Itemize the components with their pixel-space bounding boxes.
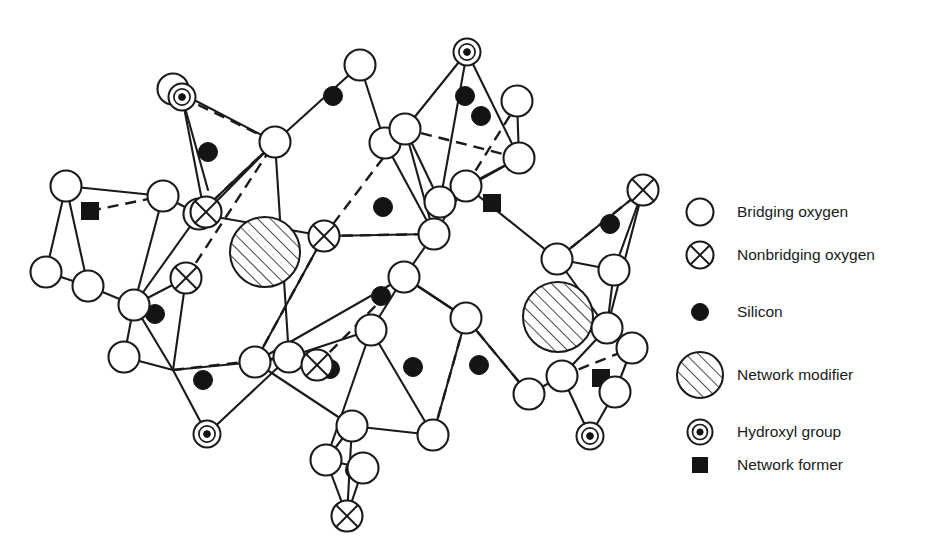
filled-square-icon (82, 203, 99, 220)
bridging-oxygen-node (514, 379, 545, 410)
open-circle-icon (514, 379, 545, 410)
nonbridging-oxygen-node (191, 197, 222, 228)
bridging-oxygen-node (337, 411, 368, 442)
bridging-oxygen-node (311, 445, 342, 476)
bridging-oxygen-node (348, 453, 379, 484)
filled-circle-icon (470, 356, 489, 375)
nonbridging-oxygen-node (171, 263, 202, 294)
network-modifier-node (523, 282, 593, 352)
filled-circle-icon (472, 107, 491, 126)
filled-circle-icon (601, 215, 620, 234)
silicon-node (194, 371, 213, 390)
nonbridging-oxygen-node (628, 175, 659, 206)
filled-circle-icon (324, 87, 343, 106)
center-dot (204, 431, 211, 438)
open-circle-icon (348, 453, 379, 484)
open-circle-icon (600, 377, 631, 408)
open-circle-icon (504, 143, 535, 174)
open-circle-icon (337, 411, 368, 442)
network-former-node (82, 203, 99, 220)
bridging-oxygen-node (600, 377, 631, 408)
center-dot (697, 429, 703, 435)
silicon-node (601, 215, 620, 234)
open-circle-icon (389, 262, 420, 293)
filled-square-icon (693, 458, 708, 473)
open-circle-icon (240, 347, 271, 378)
legend-icon-bridging-oxygen (687, 199, 714, 226)
silicon-node (472, 107, 491, 126)
bridging-oxygen-node (592, 313, 623, 344)
open-circle-icon (425, 187, 456, 218)
nonbridging-oxygen-node (309, 221, 340, 252)
bridging-oxygen-node (389, 262, 420, 293)
glass-network-figure: Bridging oxygenNonbridging oxygenSilicon… (0, 0, 933, 555)
open-circle-icon (419, 219, 450, 250)
bridging-oxygen-node (31, 257, 62, 288)
bridging-oxygen-node (51, 171, 82, 202)
open-circle-icon (119, 290, 150, 321)
filled-circle-icon (456, 87, 475, 106)
center-dot (464, 49, 471, 56)
open-circle-icon (418, 420, 449, 451)
legend-icon-network-modifier (677, 352, 723, 398)
legend-label-bridging-oxygen: Bridging oxygen (737, 203, 848, 220)
network-former-node (484, 195, 501, 212)
legend-label-hydroxyl-group: Hydroxyl group (737, 423, 841, 440)
nonbridging-oxygen-node (332, 501, 363, 532)
legend-label-network-modifier: Network modifier (737, 366, 853, 383)
open-circle-icon (502, 86, 533, 117)
hydroxyl-group-node (577, 423, 604, 450)
bridging-oxygen-node (502, 86, 533, 117)
bridging-oxygen-node (119, 290, 150, 321)
filled-circle-icon (374, 198, 393, 217)
silicon-node (372, 287, 391, 306)
bridging-oxygen-node (260, 127, 291, 158)
open-circle-icon (31, 257, 62, 288)
bridging-oxygen-node (599, 255, 630, 286)
bridging-oxygen-node (542, 244, 573, 275)
open-circle-icon (51, 171, 82, 202)
open-circle-icon (73, 271, 104, 302)
filled-circle-icon (372, 287, 391, 306)
filled-square-icon (484, 195, 501, 212)
open-circle-icon (274, 342, 305, 373)
bridging-oxygen-node (419, 219, 450, 250)
hatched-circle-icon (677, 352, 723, 398)
filled-circle-icon (199, 143, 218, 162)
network-structure-diagram: Bridging oxygenNonbridging oxygenSilicon… (0, 0, 933, 555)
open-circle-icon (390, 114, 421, 145)
bridging-oxygen-node (345, 50, 376, 81)
network-modifier-node (230, 217, 300, 287)
silicon-node (404, 358, 423, 377)
hatched-circle-icon (523, 282, 593, 352)
legend-icon-network-former (693, 458, 708, 473)
hatched-circle-icon (230, 217, 300, 287)
open-circle-icon (260, 127, 291, 158)
open-circle-icon (451, 303, 482, 334)
open-circle-icon (547, 361, 578, 392)
hydroxyl-group-node (194, 421, 221, 448)
open-circle-icon (356, 315, 387, 346)
bridging-oxygen-node (73, 271, 104, 302)
filled-circle-icon (194, 371, 213, 390)
legend-label-silicon: Silicon (737, 303, 783, 320)
open-circle-icon (311, 445, 342, 476)
center-dot (587, 433, 594, 440)
bridging-oxygen-node (390, 114, 421, 145)
legend-label-network-former: Network former (737, 456, 843, 473)
legend-label-nonbridging-oxygen: Nonbridging oxygen (737, 246, 875, 263)
filled-circle-icon (692, 304, 709, 321)
legend-icon-nonbridging-oxygen (687, 242, 714, 269)
silicon-node (456, 87, 475, 106)
bridging-oxygen-node (274, 342, 305, 373)
bridging-oxygen-node (148, 181, 179, 212)
legend-icon-silicon (692, 304, 709, 321)
bridging-oxygen-node (547, 361, 578, 392)
bridging-oxygen-node (109, 342, 140, 373)
nonbridging-oxygen-node (302, 350, 333, 381)
legend-icon-hydroxyl-group (688, 420, 713, 445)
hydroxyl-group-node (454, 39, 481, 66)
open-circle-icon (592, 313, 623, 344)
hydroxyl-group-node (169, 84, 196, 111)
open-circle-icon (542, 244, 573, 275)
